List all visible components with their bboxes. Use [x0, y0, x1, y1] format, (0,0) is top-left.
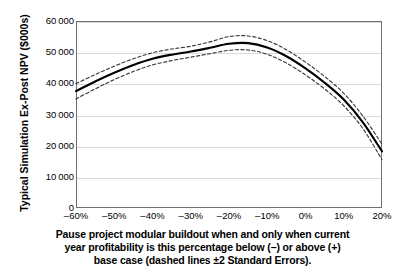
x-tick-label: 0%: [286, 210, 326, 221]
x-tick-label: –40%: [133, 210, 173, 221]
caption-line-1: Pause project modular buildout when and …: [12, 228, 393, 241]
caption-line-3: base case (dashed lines ±2 Standard Erro…: [12, 254, 393, 267]
x-tick-label: –50%: [94, 210, 134, 221]
x-axis-caption: Pause project modular buildout when and …: [12, 228, 393, 268]
caption-line-2: year profitability is this percentage be…: [12, 241, 393, 254]
series-standard-error-band: [76, 36, 382, 145]
chart-figure: Typical Simulation Ex-Post NPV ($000s) 0…: [0, 0, 405, 275]
x-tick-label: –30%: [171, 210, 211, 221]
x-tick-label: –20%: [209, 210, 249, 221]
series-mean: [76, 43, 382, 151]
x-tick-label: 20%: [362, 210, 402, 221]
series-standard-error-band: [76, 50, 382, 160]
x-tick-label: –10%: [247, 210, 287, 221]
x-tick-label: 10%: [324, 210, 364, 221]
x-tick-label: –60%: [56, 210, 96, 221]
